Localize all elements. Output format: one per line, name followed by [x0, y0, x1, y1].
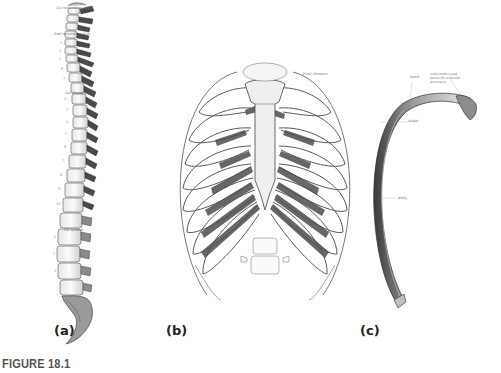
annotation-first-thoracic-b: First thoracic — [303, 72, 328, 76]
panel-c-rib: Tuberosities and facets for articular pr… — [360, 70, 501, 320]
svg-text:7: 7 — [62, 159, 65, 163]
ribcage-illustration — [175, 60, 355, 305]
spine-illustration: 345 67 234 567 8910 234 — [40, 0, 150, 345]
annotation-first-lumbar: 1st lumbar — [64, 228, 84, 232]
svg-text:10: 10 — [56, 202, 61, 206]
svg-text:2: 2 — [53, 235, 57, 239]
svg-text:4: 4 — [58, 49, 61, 53]
panel-a-spine: 345 67 234 567 8910 234 1st cervical or … — [40, 0, 150, 345]
svg-text:4: 4 — [65, 120, 68, 124]
svg-text:3: 3 — [60, 41, 63, 45]
rib-illustration — [360, 70, 501, 320]
svg-text:7: 7 — [63, 77, 66, 81]
panel-label-b: (b) — [166, 323, 187, 338]
annotation-atlas: 1st cervical or Atlas — [56, 6, 92, 10]
panel-b-ribcage: First thoracic — [175, 60, 355, 305]
svg-text:5: 5 — [65, 132, 68, 136]
svg-text:3: 3 — [53, 252, 56, 256]
svg-text:6: 6 — [64, 145, 67, 149]
annotation-angle: Angle — [408, 119, 419, 123]
panel-label-c: (c) — [360, 323, 380, 338]
annotation-first-thoracic: 1st thoracic — [65, 91, 87, 95]
svg-text:9: 9 — [58, 187, 61, 191]
svg-text:8: 8 — [60, 173, 63, 177]
annotation-neck: Neck — [410, 75, 419, 79]
panel-label-a: (a) — [54, 323, 75, 338]
annotation-tuberosities: Tuberosities and facets for articular pr… — [430, 72, 464, 84]
svg-text:5: 5 — [59, 57, 62, 61]
figure-caption: FIGURE 18.1 — [2, 356, 70, 371]
svg-text:3: 3 — [66, 108, 69, 112]
svg-text:4: 4 — [53, 269, 56, 273]
svg-text:6: 6 — [61, 67, 64, 71]
annotation-body: Body — [398, 196, 407, 200]
anatomy-figure: 345 67 234 567 8910 234 1st cervical or … — [0, 0, 501, 373]
annotation-axis: 2nd cervical or Axis — [54, 32, 90, 36]
svg-text:2: 2 — [63, 97, 67, 101]
